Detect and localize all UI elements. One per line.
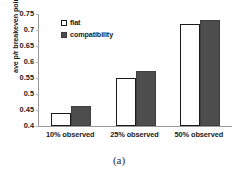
bar-group	[51, 14, 91, 126]
x-axis-tick-label: 25% observed	[102, 130, 166, 139]
y-axis-tick-mark	[36, 110, 39, 111]
y-axis-tick-mark	[36, 78, 39, 79]
bar-compatibility-2	[200, 20, 220, 126]
y-axis-tick-label: 0.6	[6, 58, 34, 66]
bar-group	[180, 14, 220, 126]
y-axis-tick-mark	[36, 126, 39, 127]
y-axis-tick-label: 0.5	[6, 90, 34, 98]
x-axis-tick-label: 50% observed	[167, 130, 231, 139]
x-axis-tick-labels: 10% observed25% observed50% observed	[38, 130, 232, 142]
y-axis-tick-mark	[36, 94, 39, 95]
y-axis-tick-label: 0.75	[6, 10, 34, 18]
y-axis-tick-mark	[36, 14, 39, 15]
y-axis-tick-label: 0.45	[6, 106, 34, 114]
y-axis-tick-mark	[36, 30, 39, 31]
plot-area: flat compatibility	[38, 14, 232, 127]
figure: ave p/r breakeven point 0.40.450.50.550.…	[0, 0, 238, 177]
y-axis-tick-mark	[36, 62, 39, 63]
y-axis-tick-label: 0.65	[6, 42, 34, 50]
x-axis-tick-label: 10% observed	[38, 130, 102, 139]
y-axis-tick-label: 0.4	[6, 122, 34, 130]
bar-flat-1	[116, 78, 136, 126]
bar-flat-0	[51, 113, 71, 126]
bar-compatibility-1	[136, 71, 156, 126]
y-axis-tick-labels: 0.40.450.50.550.60.650.70.75	[6, 14, 34, 127]
bar-flat-2	[180, 24, 200, 126]
y-axis-tick-label: 0.7	[6, 26, 34, 34]
y-axis-tick-mark	[36, 46, 39, 47]
figure-caption: (a)	[0, 154, 238, 166]
bar-compatibility-0	[71, 106, 91, 126]
bar-group	[116, 14, 156, 126]
y-axis-tick-label: 0.55	[6, 74, 34, 82]
